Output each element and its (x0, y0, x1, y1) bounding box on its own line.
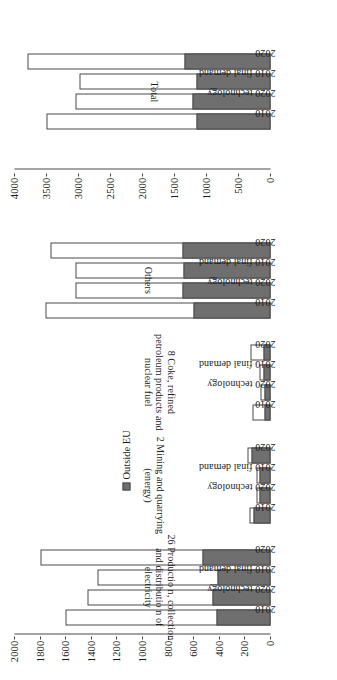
category-tick-label: 2010 (255, 603, 275, 613)
legend: Outside EU (120, 430, 131, 490)
legend-swatch-outside-eu (122, 482, 130, 490)
axis-tick-label: 2000 (9, 640, 19, 662)
axis-tick-label: 4000 (9, 177, 19, 199)
category-tick-label: 2020 (255, 441, 275, 451)
axis-tick-label: 1200 (111, 640, 121, 662)
category-tick-label: 2020 technology (207, 276, 275, 286)
value-axis-total: 05001000150020002500300035004000 (14, 173, 270, 217)
axis-tick-label: 2500 (105, 177, 115, 199)
axis-tick-mark (14, 636, 15, 639)
category-tick-label: 2010 (255, 296, 275, 306)
category-tick-label: 2020 (255, 543, 275, 553)
axis-tick-mark (14, 173, 15, 176)
axis-tick-mark (270, 636, 271, 639)
axis-tick-label: 1800 (35, 640, 45, 662)
axis-tick-mark (46, 173, 47, 176)
category-tick-label: 2010 (255, 398, 275, 408)
group-label: 2 Mining and quarrying (energy) (142, 432, 165, 538)
bar-stacked (45, 302, 270, 318)
category-tick-label: 2020 (255, 338, 275, 348)
chart-canvas: 0200400600800100012001400160018002000 20… (0, 0, 337, 680)
group-label: Others (142, 227, 154, 333)
figure-rotated-container: 0200400600800100012001400160018002000 20… (0, 0, 337, 680)
axis-tick-label: 1600 (60, 640, 70, 662)
category-tick-label: 2010 (255, 108, 275, 118)
axis-tick-mark (238, 173, 239, 176)
axis-tick-label: 1000 (201, 177, 211, 199)
axis-tick-mark (206, 173, 207, 176)
group-label: 26 Productio n, collection and distribut… (142, 534, 177, 640)
axis-tick-mark (270, 173, 271, 176)
axis-tick-label: 3000 (73, 177, 83, 199)
category-tick-label: 2010 (255, 501, 275, 511)
axis-tick-mark (110, 173, 111, 176)
group-label: 8 Coke, refined petroleum products and n… (142, 329, 177, 435)
axis-tick-mark (218, 636, 219, 639)
panel-total: 05001000150020002500300035004000 2010202… (0, 0, 337, 225)
axis-tick-mark (174, 173, 175, 176)
axis-tick-mark (65, 636, 66, 639)
category-tick-label: 2010 final demand (198, 68, 275, 78)
axis-tick-label: 600 (188, 640, 198, 656)
axis-tick-mark (90, 636, 91, 639)
axis-tick-mark (116, 636, 117, 639)
axis-tick-label: 0 (265, 177, 275, 182)
category-tick-label: 2020 technology (207, 88, 275, 98)
category-tick-label: 2020 technology (207, 378, 275, 388)
axis-tick-label: 2000 (137, 177, 147, 199)
category-tick-label: 2020 technology (207, 481, 275, 491)
axis-tick-label: 400 (214, 640, 224, 656)
axis-tick-label: 1000 (137, 640, 147, 662)
axis-tick-label: 0 (265, 640, 275, 645)
axis-tick-mark (142, 173, 143, 176)
panel-main: 0200400600800100012001400160018002000 20… (0, 225, 337, 680)
category-tick-label: 2010 final demand (198, 563, 275, 573)
axis-tick-mark (78, 173, 79, 176)
category-tick-label: 2010 final demand (198, 358, 275, 368)
axis-tick-mark (193, 636, 194, 639)
axis-tick-mark (244, 636, 245, 639)
axis-tick-label: 1400 (86, 640, 96, 662)
group-label: Total (148, 8, 160, 175)
category-tick-label: 2020 technology (207, 583, 275, 593)
category-tick-label: 2010 final demand (198, 256, 275, 266)
axis-tick-mark (39, 636, 40, 639)
axis-tick-label: 200 (239, 640, 249, 656)
axis-tick-label: 500 (233, 177, 243, 193)
axis-tick-label: 1500 (169, 177, 179, 199)
axis-tick-label: 800 (163, 640, 173, 656)
value-axis-main: 0200400600800100012001400160018002000 (14, 636, 270, 680)
category-tick-label: 2010 final demand (198, 461, 275, 471)
legend-label-outside-eu: Outside EU (120, 430, 131, 479)
category-tick-label: 2020 (255, 48, 275, 58)
category-tick-label: 2020 (255, 236, 275, 246)
axis-tick-label: 3500 (41, 177, 51, 199)
